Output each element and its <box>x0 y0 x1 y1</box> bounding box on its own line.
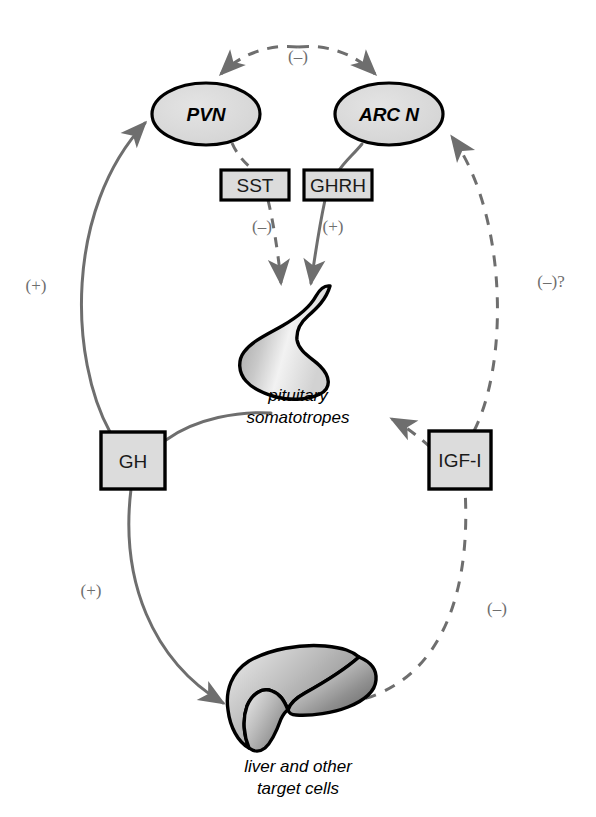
liver-caption-line2: target cells <box>257 779 340 798</box>
edge-label-liver-to-igf1: (–) <box>487 599 507 618</box>
pituitary-caption-line1: pituitary <box>267 386 329 405</box>
node-pvn-label: PVN <box>186 104 226 125</box>
edge-ghrh-to-pituitary <box>311 200 325 283</box>
edge-gh-to-liver <box>129 489 223 703</box>
node-liver[interactable] <box>227 646 376 751</box>
edge-pvn-to-sst <box>232 143 256 172</box>
node-pituitary[interactable]: pituitary <box>240 286 330 399</box>
node-pvn[interactable]: PVN <box>152 83 260 145</box>
node-arc-n[interactable]: ARC N <box>335 83 443 145</box>
edge-igf1-to-pituitary <box>392 419 430 447</box>
node-gh-label: GH <box>119 451 148 472</box>
edge-igf1-to-arcn <box>452 137 497 431</box>
edge-top-arc-to-arcn <box>298 46 375 74</box>
node-sst[interactable]: SST <box>221 170 289 200</box>
edge-label-gh-to-liver: (+) <box>81 581 102 600</box>
edge-top-arc-to-pvn <box>221 46 298 74</box>
pituitary-caption-line2: somatotropes <box>247 408 350 427</box>
liver-caption-line1: liver and other <box>244 757 353 776</box>
edge-label-gh-to-pvn: (+) <box>26 276 47 295</box>
node-igf1-label: IGF-I <box>438 450 481 471</box>
edge-gh-to-pvn <box>81 123 145 432</box>
diagram-canvas: PVN ARC N SST GHRH pituitary pituitary s… <box>0 0 596 817</box>
node-igf1[interactable]: IGF-I <box>429 431 491 489</box>
node-sst-label: SST <box>237 175 274 196</box>
node-arc-n-label: ARC N <box>358 104 420 125</box>
edge-label-top-arc: (–) <box>288 47 308 66</box>
gh-igf1-axis-diagram: PVN ARC N SST GHRH pituitary pituitary s… <box>0 0 596 817</box>
node-gh[interactable]: GH <box>101 432 165 489</box>
edge-arcn-to-ghrh <box>338 144 362 172</box>
node-ghrh-label: GHRH <box>310 175 366 196</box>
edge-label-sst-to-pituitary: (–) <box>252 217 272 236</box>
edge-label-igf1-to-arcn: (–)? <box>537 272 564 291</box>
edge-sst-to-pituitary <box>268 200 281 283</box>
edge-label-ghrh-to-pituitary: (+) <box>323 217 344 236</box>
node-ghrh[interactable]: GHRH <box>304 170 372 200</box>
liver-caption: liver and other target cells <box>244 757 353 798</box>
